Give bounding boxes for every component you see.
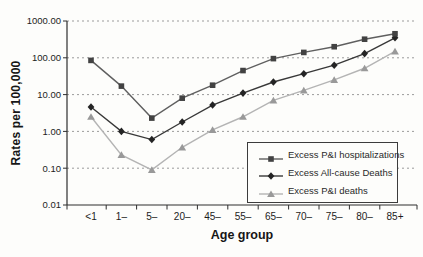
legend-label: Excess P&I deaths [288,185,368,196]
data-point-triangle [209,126,217,133]
data-point-diamond [179,118,186,126]
data-point-square [179,95,185,101]
data-point-triangle [87,113,95,120]
legend-label: Excess P&I hospitalizations [288,149,404,160]
x-category-label: 1– [116,211,128,222]
y-tick-label: 10.00 [37,89,61,100]
x-axis-title: Age group [67,228,417,242]
data-point-diamond [300,70,307,78]
excess-rates-line-chart-figure: 1000.00100.0010.001.000.100.01<11–5–20–4… [0,0,423,257]
data-point-diamond [331,61,338,69]
x-category-label: 45– [204,211,221,222]
data-point-triangle [178,144,186,151]
data-point-square [210,82,216,88]
data-point-square [392,31,398,37]
data-point-square [362,36,368,42]
data-point-square [240,68,246,74]
data-point-square [331,44,337,50]
legend-item-pi-deaths: Excess P&I deaths [258,185,393,196]
x-category-label: 75– [326,211,343,222]
x-category-label: 70– [295,211,312,222]
legend-item-all-cause-deaths: Excess All-cause Deaths [258,167,393,178]
y-tick-label: 1000.00 [27,15,61,26]
x-category-label: 65– [265,211,282,222]
legend-square-marker-icon [258,150,284,160]
x-category-label: <1 [85,211,97,222]
y-tick-label: 0.10 [43,163,62,174]
data-point-diamond [240,89,247,97]
data-point-square [149,115,155,121]
data-point-square [301,50,307,56]
data-point-triangle [239,113,247,120]
data-point-diamond [270,78,277,86]
x-category-label: 80– [356,211,373,222]
legend-diamond-marker-icon [258,167,284,177]
x-category-label: 20– [174,211,191,222]
y-tick-label: 0.01 [43,199,62,210]
x-category-label: 5– [146,211,158,222]
data-point-square [119,83,125,89]
line-chart-plot: 1000.00100.0010.001.000.100.01<11–5–20–4… [0,0,423,257]
y-tick-label: 1.00 [43,126,62,137]
data-point-diamond [361,50,368,58]
data-point-triangle [330,76,338,83]
legend-triangle-marker-icon [258,185,284,195]
data-point-triangle [361,65,369,72]
data-point-diamond [209,101,216,109]
legend: Excess P&I hospitalizations Excess All-c… [247,142,398,203]
series-line [91,34,395,118]
series-line [91,38,395,140]
data-point-triangle [391,48,399,55]
data-point-square [88,58,94,64]
x-category-label: 85+ [387,211,404,222]
data-point-square [271,56,277,62]
y-tick-label: 100.00 [32,52,61,63]
x-category-label: 55– [235,211,252,222]
y-axis-title: Rates per 100,000 [9,21,23,205]
data-point-diamond [148,136,155,144]
legend-label: Excess All-cause Deaths [288,167,393,178]
legend-item-hospitalizations: Excess P&I hospitalizations [258,149,393,160]
